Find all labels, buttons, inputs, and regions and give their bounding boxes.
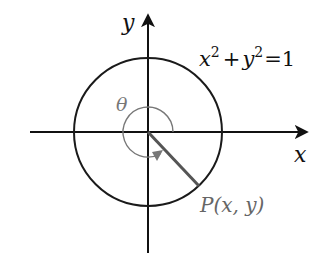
theta-label: θ: [116, 93, 128, 115]
eq-y-exp: 2: [254, 44, 263, 60]
eq-plus: +: [223, 47, 241, 71]
point-p-label: P(x, y): [199, 193, 264, 217]
radius-line: [148, 132, 199, 186]
eq-x: x: [199, 47, 211, 71]
unit-circle-diagram: y x x2+y2=1 θ P(x, y): [0, 0, 329, 273]
x-axis-label: x: [294, 142, 307, 167]
eq-equals: =: [264, 47, 282, 71]
angle-arrowhead: [152, 150, 163, 161]
circle-equation: x2+y2=1: [199, 44, 295, 71]
eq-x-exp: 2: [211, 44, 220, 60]
y-axis-label: y: [121, 10, 135, 35]
eq-rhs: 1: [282, 47, 295, 71]
